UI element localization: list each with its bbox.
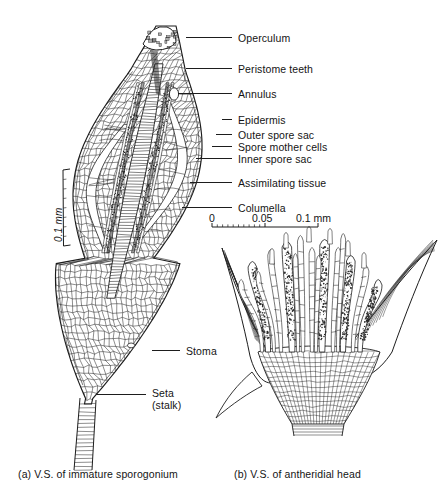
leader-line-peristome-teeth <box>186 68 232 69</box>
leader-line-epidermis <box>222 119 232 120</box>
scale-tick-0: 0 <box>209 212 215 224</box>
leader-line-stoma <box>152 350 180 351</box>
leader-line-spore-mother-cells <box>212 146 232 147</box>
label-stoma: Stoma <box>186 345 217 357</box>
leader-line-annulus <box>178 93 232 94</box>
leader-line-seta-stalk <box>96 394 146 395</box>
scale-tick-2: 0.1 mm <box>296 212 331 224</box>
leader-line-inner-spore-sac <box>196 158 232 159</box>
label-spore-mother-cells: Spore mother cells <box>238 141 327 153</box>
caption-sporogonium: (a) V.S. of immature sporogonium (capsul… <box>6 455 178 489</box>
botanical-illustration-canvas <box>0 0 447 489</box>
figure-root: OperculumPeristome teethAnnulusEpidermis… <box>0 0 447 489</box>
label-peristome-teeth: Peristome teeth <box>238 63 313 75</box>
antheridial-head-drawing <box>216 227 437 437</box>
label-inner-spore-sac: Inner spore sac <box>238 153 312 165</box>
scale-tick-1: 0.05 <box>252 212 272 224</box>
vertical-scale-label: 0.1 mm <box>53 207 64 242</box>
caption-antheridial-head: (b) V.S. of antheridial head of Funaria <box>222 455 361 489</box>
label-seta-stalk: Seta <box>152 387 174 399</box>
leader-line-outer-spore-sac <box>216 134 232 135</box>
label-assimilating-tissue: Assimilating tissue <box>238 177 326 189</box>
label-outer-spore-sac: Outer spore sac <box>238 129 314 141</box>
leader-line-columella <box>182 207 232 208</box>
label-seta-stalk-2: (stalk) <box>152 399 181 411</box>
caption-b-line1: (b) V.S. of antheridial head <box>234 468 361 480</box>
leader-line-operculum <box>186 37 232 38</box>
leader-line-assimilating-tissue <box>190 182 232 183</box>
caption-a-line1: (a) V.S. of immature sporogonium <box>18 468 178 480</box>
label-epidermis: Epidermis <box>238 114 286 126</box>
label-operculum: Operculum <box>238 32 290 44</box>
label-annulus: Annulus <box>238 88 277 100</box>
